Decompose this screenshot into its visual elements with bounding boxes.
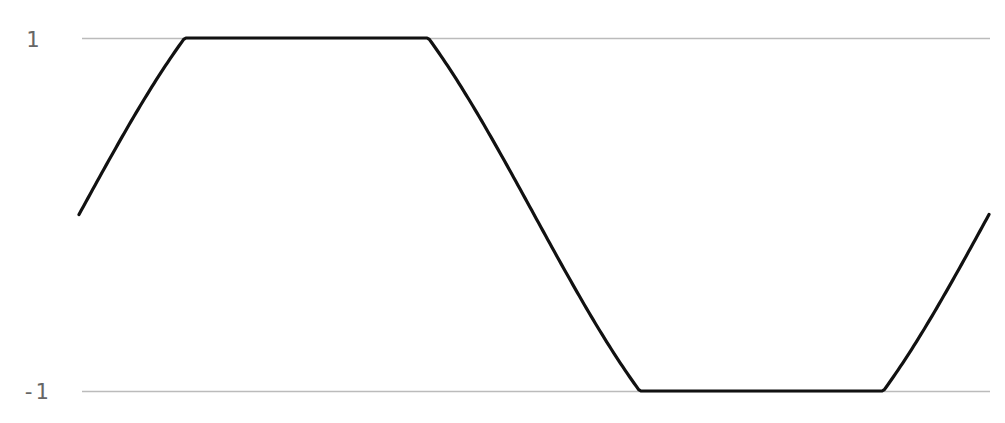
clipped-sine-line (79, 38, 989, 391)
chart-plot-area (0, 0, 1005, 423)
